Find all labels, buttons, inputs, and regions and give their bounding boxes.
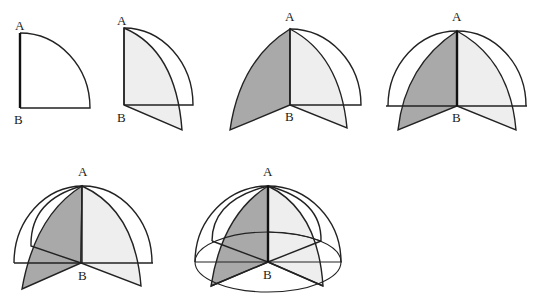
label-b: B [117, 110, 126, 125]
panel-2: A B [117, 13, 193, 130]
light-sector [81, 186, 141, 286]
light-sector [268, 186, 323, 286]
panel-4: A B [386, 9, 527, 130]
dark-sector [211, 186, 268, 286]
quarter-disc-outline [20, 33, 90, 108]
panel-6: A B [195, 164, 342, 292]
panel-3: A B [230, 9, 361, 130]
label-b: B [78, 268, 87, 283]
label-a: A [285, 9, 295, 24]
label-b: B [14, 112, 23, 127]
label-a: A [117, 13, 127, 28]
label-a: A [78, 164, 88, 179]
hemisphere-construction-diagram: A B A B A B A B A B [0, 0, 542, 306]
dark-sector [230, 29, 290, 130]
label-a: A [15, 18, 25, 33]
label-a: A [452, 9, 462, 24]
light-sector [457, 31, 516, 130]
light-sector [290, 29, 347, 128]
label-a: A [263, 164, 273, 179]
label-b: B [285, 109, 294, 124]
label-b: B [263, 267, 272, 282]
panel-5: A B [14, 164, 153, 289]
light-sector [124, 28, 182, 130]
dark-sector [398, 31, 457, 130]
label-b: B [452, 110, 461, 125]
panel-1: A B [14, 18, 90, 127]
